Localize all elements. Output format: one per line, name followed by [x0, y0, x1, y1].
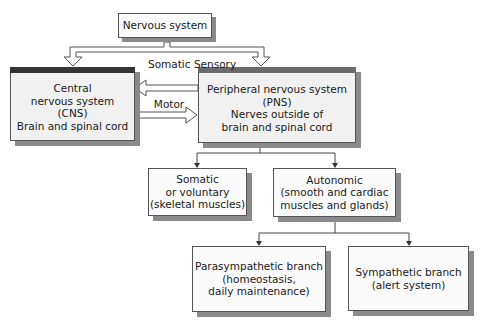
- node-nervous-system: Nervous system: [118, 13, 212, 38]
- node-label: Central: [53, 82, 91, 95]
- node-somatic: Somatic or voluntary (skeletal muscles): [148, 168, 247, 216]
- node-label: daily maintenance): [208, 285, 309, 298]
- edge-label-line: Somatic: [148, 58, 191, 70]
- node-label: Somatic: [176, 173, 219, 186]
- cns-header-bar: [10, 67, 135, 73]
- node-parasympathetic: Parasympathetic branch (homeostasis, dai…: [192, 246, 326, 312]
- node-label: Nervous system: [123, 19, 208, 32]
- edge-label-motor: Motor: [150, 98, 188, 110]
- node-pns: Peripheral nervous system (PNS) Nerves o…: [198, 67, 356, 143]
- node-sympathetic: Sympathetic branch (alert system): [348, 246, 469, 311]
- node-label: (smooth and cardiac: [281, 186, 389, 199]
- edge-label-line: Motor: [154, 98, 184, 110]
- node-label: Sympathetic branch: [355, 266, 461, 279]
- sensory-arrow: [135, 80, 198, 96]
- node-label: Autonomic: [306, 174, 362, 187]
- node-cns: Central nervous system (CNS) Brain and s…: [10, 67, 135, 141]
- node-label: (homeostasis,: [222, 273, 296, 286]
- node-label: Nerves outside of: [231, 108, 323, 121]
- node-label: nervous system: [31, 95, 115, 108]
- node-label: (CNS): [57, 107, 87, 120]
- node-label: (skeletal muscles): [150, 198, 245, 211]
- edge-label-line: Sensory: [194, 58, 236, 70]
- node-label: or voluntary: [165, 186, 229, 199]
- node-label: brain and spinal cord: [222, 121, 333, 134]
- node-label: (PNS): [262, 96, 291, 109]
- edge-label-sensory: Somatic Sensory: [148, 58, 194, 70]
- node-label: (alert system): [372, 279, 446, 292]
- node-label: Brain and spinal cord: [17, 120, 128, 133]
- node-label: Parasympathetic branch: [195, 260, 323, 273]
- node-label: Peripheral nervous system: [207, 83, 347, 96]
- node-autonomic: Autonomic (smooth and cardiac muscles an…: [273, 168, 396, 217]
- node-label: muscles and glands): [280, 199, 388, 212]
